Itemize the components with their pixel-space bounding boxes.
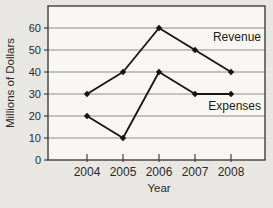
x-tick-label: 2008 xyxy=(218,165,245,179)
x-axis-title: Year xyxy=(147,182,170,194)
y-tick-label: 60 xyxy=(29,22,41,34)
y-tick-label: 40 xyxy=(29,66,41,78)
y-tick-label: 30 xyxy=(29,88,41,100)
x-tick-label: 2006 xyxy=(146,165,173,179)
y-tick-label: 0 xyxy=(35,154,41,166)
series-label-revenue: Revenue xyxy=(213,30,261,44)
y-tick-label: 50 xyxy=(29,44,41,56)
x-tick-label: 2004 xyxy=(74,165,101,179)
y-tick-label: 20 xyxy=(29,110,41,122)
y-tick-label: 10 xyxy=(29,132,41,144)
x-tick-label: 2007 xyxy=(182,165,209,179)
series-label-expenses: Expenses xyxy=(208,99,261,113)
y-axis-title: Millions of Dollars xyxy=(4,38,16,128)
x-tick-label: 2005 xyxy=(110,165,137,179)
line-chart-figure: 010203040506020042005200620072008 Millio… xyxy=(0,0,273,208)
line-chart: 010203040506020042005200620072008 Millio… xyxy=(0,0,273,208)
